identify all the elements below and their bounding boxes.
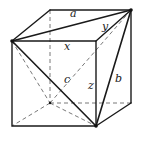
label-x: x (64, 40, 71, 53)
vertex-front-bottom-right (94, 124, 98, 128)
vertex-front-top-left (10, 39, 14, 43)
label-y: y (101, 20, 109, 33)
label-b: b (115, 72, 122, 85)
front-face-diagonal (12, 41, 96, 126)
label-z: z (87, 79, 94, 92)
hidden-bottom-left-edge (12, 103, 50, 126)
hidden-left-face-diagonal (12, 41, 50, 103)
vertex-back-bottom-left (49, 102, 51, 104)
vertex-back-top-right (129, 8, 133, 12)
label-c: c (64, 73, 70, 86)
cube-diagram: a x y c z b (0, 0, 143, 144)
label-a: a (70, 7, 77, 20)
visible-diagonals (12, 10, 131, 126)
hidden-bottom-face-diagonal (50, 103, 96, 126)
